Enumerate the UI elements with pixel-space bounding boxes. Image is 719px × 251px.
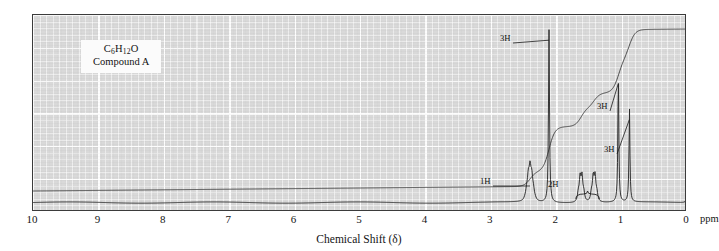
x-tick-6: 6 (291, 213, 297, 225)
x-tick-1: 1 (618, 213, 624, 225)
x-tick-4: 4 (422, 213, 428, 225)
x-tick-3: 3 (487, 213, 493, 225)
formula-h-count: 12 (123, 47, 131, 56)
molecular-formula: C6H12O (93, 43, 149, 56)
integration-label-2: 2H (548, 179, 559, 189)
formula-c: C (104, 43, 111, 54)
x-tick-0: 0 (683, 213, 689, 225)
x-axis-title: Chemical Shift (δ) (32, 233, 686, 245)
x-tick-9: 9 (95, 213, 101, 225)
integration-label-4: 3H (604, 144, 615, 154)
formula-o: O (131, 43, 139, 54)
plot-frame: C6H12O Compound A (32, 14, 686, 211)
integration-label-3: 3H (597, 101, 608, 111)
x-tick-10: 10 (27, 213, 38, 225)
x-tick-2: 2 (552, 213, 558, 225)
x-tick-8: 8 (160, 213, 166, 225)
compound-label-box: C6H12O Compound A (81, 40, 161, 73)
annotation-leader-lines (493, 40, 629, 199)
integration-label-0: 1H (480, 176, 491, 186)
compound-name: Compound A (93, 56, 149, 68)
leader-line-3 (610, 83, 618, 111)
integration-label-1: 3H (500, 33, 511, 43)
leader-line-1 (513, 40, 549, 43)
x-tick-7: 7 (225, 213, 231, 225)
x-axis: 109876543210 ppm Chemical Shift (δ) (32, 211, 686, 251)
x-tick-5: 5 (356, 213, 362, 225)
formula-h: H (115, 43, 123, 54)
integration-bracket-2h (576, 191, 600, 199)
x-axis-unit: ppm (700, 213, 719, 224)
